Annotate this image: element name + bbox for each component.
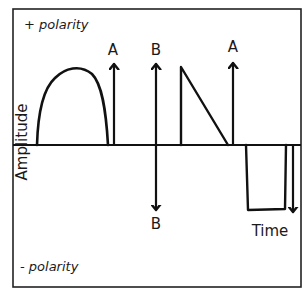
amplitude-axis-label: Amplitude [13,104,31,181]
polarity-waveform-diagram: A B B A + polarity - polarity Time Ampli… [0,0,308,298]
positive-polarity-label: + polarity [24,17,89,32]
arrow-a-first-label: A [108,41,119,59]
positive-sawtooth-waveform [181,67,228,145]
arrow-a-second-label: A [228,38,239,56]
arrow-b-bottom-label: B [151,215,161,233]
time-axis-label: Time [251,222,289,240]
positive-arch-waveform [37,68,108,145]
arrow-b-top-label: B [151,41,161,59]
negative-polarity-label: - polarity [20,259,79,274]
negative-square-pulse-waveform [246,145,286,210]
